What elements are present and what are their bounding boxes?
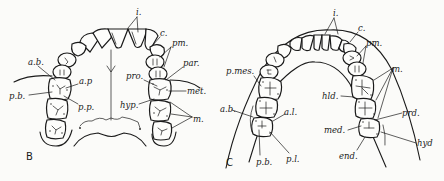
label-anterior-buccal: a.b. — [28, 57, 44, 67]
label-canine: c. — [358, 23, 365, 33]
label-protoconid: prd. — [402, 108, 420, 118]
label-molars: m. — [392, 64, 403, 74]
label-protocone: pro. — [126, 71, 143, 81]
label-posterior-lingual: p.l. — [286, 154, 300, 164]
label-anterior-palatal: a.p — [79, 76, 93, 86]
panel-c-labels: i. c. pm. m. p.mes. hld. prd. med. hyd e… — [220, 8, 433, 168]
label-incisors: i. — [136, 7, 141, 17]
label-posterior-palatal: p.p. — [78, 102, 94, 112]
label-premolars: pm. — [366, 38, 382, 48]
label-molars: m. — [193, 114, 204, 124]
lower-incisors — [290, 35, 350, 52]
label-entoconid: end. — [339, 151, 358, 161]
panel-label-c: C — [226, 157, 233, 168]
label-metaconid: med. — [324, 125, 345, 135]
label-incisors: i. — [333, 8, 338, 18]
panel-b-upper-arch: i. c. pm. par. pro. met. hyp. m. a.b. a.… — [9, 7, 206, 162]
label-posterior-buccal: p.b. — [256, 157, 272, 167]
label-anterior-lingual: a.l. — [284, 107, 297, 117]
label-canine: c. — [160, 28, 167, 38]
label-paracone: par. — [183, 58, 199, 68]
label-premolars: pm. — [172, 38, 188, 48]
label-posterior-buccal: p.b. — [9, 91, 25, 101]
panel-c-lower-arch: i. c. pm. m. p.mes. hld. prd. med. hyd e… — [220, 8, 433, 168]
palate-outline — [74, 50, 146, 146]
label-anterior-buccal: a.b. — [220, 104, 236, 114]
label-posterior-mesial: p.mes. — [226, 66, 254, 76]
label-metacone: met. — [187, 86, 206, 96]
label-hypoconid: hyd — [417, 138, 433, 148]
label-hypoconulid: hld. — [322, 91, 338, 101]
dental-arches-diagram: i. c. pm. par. pro. met. hyp. m. a.b. a.… — [0, 0, 444, 181]
lower-left-teeth — [250, 44, 291, 136]
panel-label-b: B — [26, 151, 33, 162]
upper-incisors — [80, 29, 158, 52]
label-hypocone: hyp. — [120, 100, 138, 110]
